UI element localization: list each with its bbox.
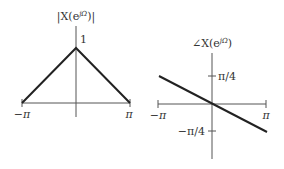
magnitude-xmax-label: π [124, 108, 133, 121]
magnitude-peak-label: 1 [80, 33, 87, 46]
phase-ytop-label: π/4 [218, 70, 236, 83]
phase-xmax-label: π [261, 109, 270, 122]
phase-plot: ∠X(ejΩ) π/4 −π/4 −π π [150, 37, 271, 159]
magnitude-title: |X(ejΩ)| [57, 10, 95, 24]
magnitude-plot: |X(ejΩ)| 1 −π π [14, 10, 134, 121]
phase-xmin-label: −π [150, 109, 167, 122]
phase-ybot-label: −π/4 [178, 125, 205, 138]
phase-title: ∠X(ejΩ) [192, 37, 232, 50]
magnitude-xmin-label: −π [14, 108, 31, 121]
figure: |X(ejΩ)| 1 −π π ∠X(ejΩ) π/4 −π/4 −π π [0, 0, 284, 169]
